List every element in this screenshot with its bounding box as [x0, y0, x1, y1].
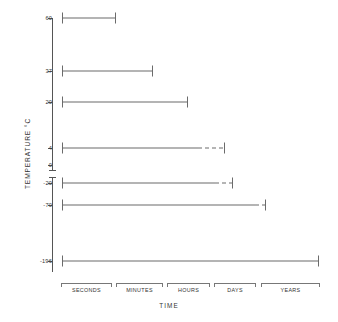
bracket-top-seconds: [61, 283, 112, 284]
y-axis-title: TEMPERATURE °C: [24, 94, 31, 214]
x-axis-title: TIME: [0, 302, 338, 309]
bar-60c: [62, 13, 116, 24]
y-axis-upper-segment: [52, 18, 53, 170]
bar-minus70c-solid: [62, 205, 255, 206]
x-category-label-hours: HOURS: [167, 287, 210, 293]
bar-minus70c: [62, 200, 266, 211]
y-tick-label-37: 37: [45, 68, 52, 74]
bar-minus70c-dashed-extension: [255, 205, 265, 206]
bar-minus196c-solid: [62, 261, 318, 262]
y-axis-lower-segment: [52, 177, 53, 272]
bar-37c-solid: [62, 71, 152, 72]
x-category-hours: HOURS: [167, 283, 210, 297]
bar-minus70c-end-cap: [265, 200, 266, 211]
bar-minus196c-end-cap: [318, 256, 319, 267]
bar-4c: [62, 143, 225, 154]
bar-60c-end-cap: [115, 13, 116, 24]
temperature-time-chart: 60 37 20 4 0 -20 -70 -196 TEMPERATURE °C: [0, 0, 338, 322]
y-tick-label-4: 4: [49, 145, 52, 151]
bracket-top-days: [214, 283, 256, 284]
bar-minus196c: [62, 256, 319, 267]
y-axis: 60 37 20 4 0 -20 -70 -196 TEMPERATURE °C: [0, 0, 338, 322]
bracket-top-minutes: [116, 283, 163, 284]
x-category-years: YEARS: [261, 283, 320, 297]
bracket-top-years: [261, 283, 320, 284]
bar-minus20c: [62, 178, 233, 189]
bar-minus20c-end-cap: [232, 178, 233, 189]
bar-4c-dashed-extension: [198, 148, 224, 149]
y-tick-label-60: 60: [45, 15, 52, 21]
x-category-seconds: SECONDS: [61, 283, 112, 297]
x-category-label-minutes: MINUTES: [116, 287, 163, 293]
bar-60c-solid: [62, 18, 115, 19]
x-category-label-years: YEARS: [261, 287, 320, 293]
bar-37c-end-cap: [152, 66, 153, 77]
x-category-label-days: DAYS: [214, 287, 256, 293]
bar-4c-end-cap: [224, 143, 225, 154]
bracket-top-hours: [167, 283, 210, 284]
bar-minus20c-dashed-extension: [215, 183, 232, 184]
bar-20c: [62, 97, 188, 108]
x-category-minutes: MINUTES: [116, 283, 163, 297]
y-tick-label-minus-196: -196: [40, 258, 52, 264]
y-axis-upper-bottom-cap: [49, 170, 56, 171]
bar-37c: [62, 66, 153, 77]
bar-20c-end-cap: [187, 97, 188, 108]
y-tick-label-0: 0: [49, 162, 52, 168]
x-category-days: DAYS: [214, 283, 256, 297]
bar-20c-solid: [62, 102, 187, 103]
y-tick-label-minus-20: -20: [43, 180, 52, 186]
bar-minus20c-solid: [62, 183, 215, 184]
y-tick-label-minus-70: -70: [43, 202, 52, 208]
x-category-label-seconds: SECONDS: [61, 287, 112, 293]
y-tick-label-20: 20: [45, 99, 52, 105]
bar-4c-solid: [62, 148, 198, 149]
